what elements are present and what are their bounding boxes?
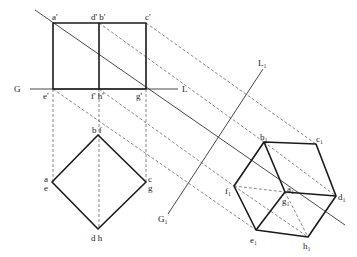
label-c-prime: c' xyxy=(145,12,151,22)
top-view: b f a e c g d h xyxy=(44,125,153,243)
label-e1: e₁ xyxy=(250,235,257,245)
label-a-prime: a' xyxy=(52,12,58,22)
label-l1: L₁ xyxy=(258,58,267,68)
label-g: g xyxy=(148,183,153,193)
projector-e xyxy=(53,89,256,230)
label-fh-prime: f' h' xyxy=(91,91,104,101)
label-g-prime: g' xyxy=(136,91,143,101)
label-d1: d₁ xyxy=(338,192,346,202)
auxiliary-view: b₁ c₁ d₁ h₁ e₁ f₁ a₁ g₁ xyxy=(225,132,346,251)
projector-fh xyxy=(99,89,234,186)
label-g1: G₁ xyxy=(158,214,168,224)
label-g: G xyxy=(14,84,21,94)
label-c1: c₁ xyxy=(316,134,323,144)
label-e-prime: e' xyxy=(43,91,49,101)
projector-lines-vertical xyxy=(53,89,146,229)
label-db-prime: d' b' xyxy=(91,12,106,22)
label-f1: f₁ xyxy=(225,186,231,196)
hidden-edge-f1-g1 xyxy=(234,186,285,192)
label-h1: h₁ xyxy=(303,241,311,251)
front-view: a' d' b' c' e' f' h' g' xyxy=(43,12,151,101)
edge-a1-e1 xyxy=(256,192,285,230)
label-b1: b₁ xyxy=(260,132,268,142)
projection-diagram: G L G₁ L₁ a' d' b' c' e' f' h' g' b f a … xyxy=(0,0,357,257)
auxiliary-view-outline xyxy=(234,142,336,237)
label-dh: d h xyxy=(91,233,103,243)
projector-c xyxy=(146,23,316,144)
label-a1: a₁ xyxy=(287,184,294,194)
label-l: L xyxy=(182,84,188,94)
label-bf: b f xyxy=(92,125,102,135)
label-g1-point: g₁ xyxy=(282,196,290,206)
label-e: e xyxy=(44,183,48,193)
projector-db xyxy=(99,23,264,142)
